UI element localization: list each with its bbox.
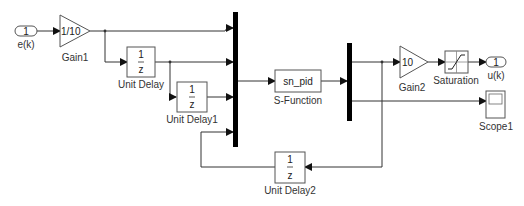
unit-delay2-num: 1 bbox=[287, 154, 293, 165]
sfunction-block[interactable]: sn_pid S-Function bbox=[274, 70, 322, 106]
inport-number: 1 bbox=[23, 26, 29, 37]
unit-delay2-block[interactable]: 1 z Unit Delay2 bbox=[264, 152, 316, 196]
line-unitdelay-unitdelay1[interactable] bbox=[170, 62, 176, 97]
simulink-canvas: 1 e(k) 1/10 Gain1 1 z Unit Delay 1 z Uni… bbox=[0, 0, 524, 206]
scope-block[interactable]: Scope1 bbox=[479, 91, 513, 132]
saturation-label: Saturation bbox=[433, 75, 479, 86]
unit-delay1-block[interactable]: 1 z Unit Delay1 bbox=[166, 82, 218, 125]
scope-screen-icon bbox=[489, 94, 502, 104]
unit-delay1-den: z bbox=[190, 99, 195, 110]
signal-lines bbox=[37, 28, 486, 167]
line-gain1-mux[interactable] bbox=[90, 28, 233, 31]
unit-delay1-num: 1 bbox=[189, 84, 195, 95]
saturation-block[interactable]: Saturation bbox=[433, 51, 479, 86]
sfunction-value: sn_pid bbox=[283, 76, 312, 87]
branch-point bbox=[169, 61, 172, 64]
gain2-label: Gain2 bbox=[399, 82, 426, 93]
gain2-block[interactable]: 10 Gain2 bbox=[399, 46, 428, 93]
outport-block[interactable]: 1 u(k) bbox=[486, 57, 506, 81]
unit-delay2-label: Unit Delay2 bbox=[264, 185, 316, 196]
outport-number: 1 bbox=[493, 57, 499, 68]
unit-delay-num: 1 bbox=[138, 49, 144, 60]
line-gain1-unitdelay[interactable] bbox=[105, 31, 127, 62]
unit-delay-label: Unit Delay bbox=[118, 79, 164, 90]
demux-block[interactable] bbox=[347, 43, 352, 121]
unit-delay-block[interactable]: 1 z Unit Delay bbox=[118, 47, 164, 90]
gain1-value: 1/10 bbox=[61, 26, 81, 37]
gain1-label: Gain1 bbox=[62, 52, 89, 63]
gain1-block[interactable]: 1/10 Gain1 bbox=[60, 15, 90, 63]
inport-label: e(k) bbox=[17, 39, 34, 50]
gain2-value: 10 bbox=[402, 57, 414, 68]
mux-block[interactable] bbox=[233, 12, 238, 147]
outport-label: u(k) bbox=[487, 70, 504, 81]
branch-point bbox=[104, 30, 107, 33]
unit-delay2-den: z bbox=[288, 170, 293, 181]
unit-delay1-label: Unit Delay1 bbox=[166, 114, 218, 125]
branch-point bbox=[381, 61, 384, 64]
inport-block[interactable]: 1 e(k) bbox=[15, 26, 37, 50]
unit-delay-den: z bbox=[139, 64, 144, 75]
scope-label: Scope1 bbox=[479, 121, 513, 132]
sfunction-label: S-Function bbox=[274, 95, 322, 106]
